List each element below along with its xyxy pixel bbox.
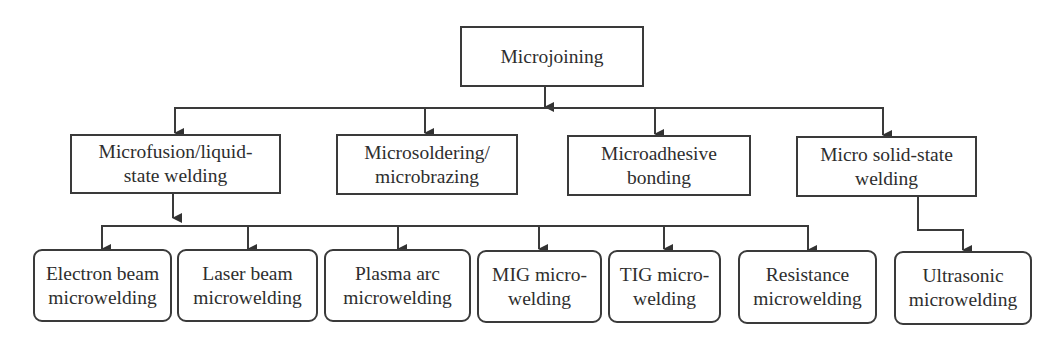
node-label: Microsoldering/ microbrazing <box>364 141 490 189</box>
node-label: Plasma arc microwelding <box>343 262 451 310</box>
arrow-to-ultrasonic <box>918 196 963 250</box>
node-label: MIG micro- welding <box>492 263 587 311</box>
microjoining-tree-diagram: Microjoining Microfusion/liquid- state w… <box>0 0 1061 346</box>
node-plasma-arc: Plasma arc microwelding <box>324 249 471 322</box>
node-label: Micro solid-state welding <box>820 143 953 191</box>
node-label: Electron beam microwelding <box>46 262 159 310</box>
node-label: Microfusion/liquid- state welding <box>99 140 253 188</box>
node-resistance: Resistance microwelding <box>738 250 877 324</box>
node-label: TIG micro- welding <box>620 263 709 311</box>
node-microadhesive: Microadhesive bonding <box>567 135 751 196</box>
node-microsoldering: Microsoldering/ microbrazing <box>336 134 518 195</box>
node-electron-beam: Electron beam microwelding <box>33 249 172 322</box>
node-label: Resistance microwelding <box>753 263 861 311</box>
node-microfusion: Microfusion/liquid- state welding <box>70 134 281 194</box>
node-label: Microjoining <box>501 45 604 69</box>
node-label: Ultrasonic microwelding <box>909 264 1017 312</box>
node-laser-beam: Laser beam microwelding <box>177 249 318 322</box>
node-label: Laser beam microwelding <box>193 262 301 310</box>
node-tig: TIG micro- welding <box>608 250 721 323</box>
node-label: Microadhesive bonding <box>601 142 717 190</box>
node-ultrasonic: Ultrasonic microwelding <box>894 251 1032 325</box>
node-microjoining: Microjoining <box>460 26 644 87</box>
node-micro-solid-state: Micro solid-state welding <box>796 136 977 197</box>
node-mig: MIG micro- welding <box>477 250 602 323</box>
